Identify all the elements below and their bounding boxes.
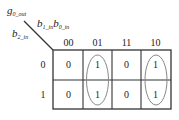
cell-r0-c11: 0: [112, 60, 141, 70]
row-header-1: 1: [38, 90, 48, 100]
col-header-10: 10: [141, 38, 170, 48]
corner-diagonal: [24, 21, 53, 50]
cell-r1-c00: 0: [54, 90, 83, 100]
cell-r1-c01: 1: [83, 90, 112, 100]
cell-r0-c10: 1: [141, 60, 170, 70]
cell-r1-c11: 0: [112, 90, 141, 100]
cell-r0-c00: 0: [54, 60, 83, 70]
cell-r0-c01: 1: [83, 60, 112, 70]
col-header-11: 11: [112, 38, 141, 48]
col-header-00: 00: [54, 38, 83, 48]
row-header-0: 0: [38, 60, 48, 70]
cell-r1-c10: 1: [141, 90, 170, 100]
col-header-01: 01: [83, 38, 112, 48]
